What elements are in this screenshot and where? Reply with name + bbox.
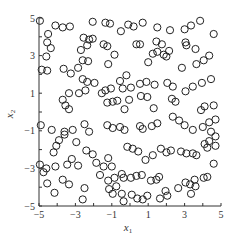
- data-point: [162, 187, 169, 194]
- data-point: [182, 179, 189, 186]
- data-point: [193, 61, 200, 68]
- data-point: [67, 70, 74, 77]
- data-point: [212, 133, 219, 140]
- data-point: [175, 185, 182, 192]
- data-point: [164, 192, 171, 199]
- data-point: [111, 51, 118, 58]
- data-point: [123, 72, 130, 79]
- data-point: [66, 23, 73, 30]
- data-point: [197, 17, 204, 24]
- data-point: [187, 190, 194, 197]
- data-point: [212, 142, 219, 149]
- data-point: [114, 97, 121, 104]
- data-point: [163, 149, 170, 156]
- data-point: [116, 77, 123, 84]
- data-point: [210, 160, 217, 167]
- data-point: [65, 181, 72, 188]
- data-point: [44, 180, 51, 187]
- data-point: [60, 65, 67, 72]
- data-point: [43, 53, 50, 60]
- data-point: [108, 163, 115, 170]
- data-point: [106, 186, 113, 193]
- data-point: [191, 176, 198, 183]
- data-point: [119, 85, 126, 92]
- data-point: [37, 122, 44, 129]
- x-tick-label: 3: [182, 209, 187, 220]
- x-tick-label: −1: [106, 209, 117, 220]
- data-point: [167, 147, 174, 154]
- data-point: [105, 155, 112, 162]
- y-tick-label: −3: [24, 163, 35, 174]
- y-tick-label: 1: [30, 88, 35, 99]
- data-point: [207, 76, 214, 83]
- data-point: [96, 171, 103, 178]
- data-point: [118, 190, 125, 197]
- data-point: [89, 18, 96, 25]
- data-point: [120, 198, 127, 205]
- data-point: [86, 128, 93, 135]
- scatter-chart: −5−3−1135−5−3−1135 x1 x2: [0, 0, 230, 243]
- x-axis-label: x1: [123, 221, 133, 235]
- data-point: [144, 192, 151, 199]
- data-point: [105, 61, 112, 68]
- data-point: [89, 151, 96, 158]
- data-point: [48, 126, 55, 133]
- data-point: [139, 19, 146, 26]
- y-tick-label: 3: [30, 50, 35, 61]
- data-point: [111, 174, 118, 181]
- data-point: [149, 152, 156, 159]
- data-point: [117, 28, 124, 35]
- data-point: [93, 159, 100, 166]
- data-point: [82, 87, 89, 94]
- data-point: [145, 59, 152, 66]
- data-point: [52, 22, 59, 29]
- data-point: [77, 46, 84, 53]
- data-point: [127, 84, 134, 91]
- data-point: [85, 58, 92, 65]
- x-tick-label: −3: [70, 209, 81, 220]
- data-point: [198, 79, 205, 86]
- data-point: [126, 96, 133, 103]
- data-point: [212, 116, 219, 123]
- data-point: [199, 123, 206, 130]
- x-tick-label: 5: [219, 209, 224, 220]
- data-point: [154, 24, 161, 31]
- data-point: [75, 162, 82, 169]
- data-point: [192, 45, 199, 52]
- data-point: [52, 163, 59, 170]
- data-point: [150, 105, 157, 112]
- data-point: [210, 102, 217, 109]
- data-point: [210, 30, 217, 37]
- data-point: [178, 64, 185, 71]
- data-point: [106, 20, 113, 27]
- data-point: [59, 176, 66, 183]
- data-point: [138, 171, 145, 178]
- data-point: [149, 50, 156, 57]
- data-point: [79, 196, 86, 203]
- data-point: [189, 83, 196, 90]
- data-point: [75, 64, 82, 71]
- data-point: [200, 57, 207, 64]
- data-point: [109, 190, 116, 197]
- data-point: [65, 90, 72, 97]
- data-points: [36, 17, 219, 205]
- data-point: [142, 156, 149, 163]
- data-point: [51, 189, 58, 196]
- data-point: [68, 155, 75, 162]
- data-point: [187, 22, 194, 29]
- x-tick-label: 1: [146, 209, 151, 220]
- data-point: [169, 83, 176, 90]
- y-tick-label: 5: [30, 13, 35, 24]
- data-point: [45, 30, 52, 37]
- data-point: [100, 163, 107, 170]
- data-point: [207, 128, 214, 135]
- data-point: [182, 88, 189, 95]
- data-point: [69, 126, 76, 133]
- data-point: [139, 196, 146, 203]
- data-point: [81, 121, 88, 128]
- data-point: [91, 79, 98, 86]
- data-point: [151, 81, 158, 88]
- y-tick-label: −5: [24, 201, 35, 212]
- data-point: [81, 185, 88, 192]
- data-point: [73, 139, 80, 146]
